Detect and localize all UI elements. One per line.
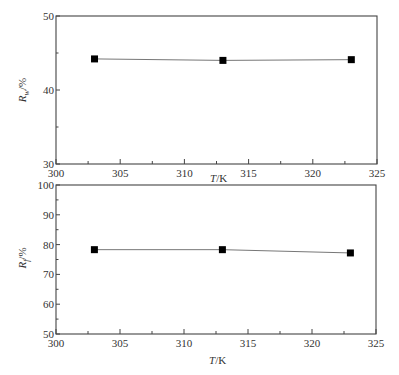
y-tick-label: 50	[43, 10, 55, 22]
data-point-marker	[91, 55, 98, 62]
plot-frame	[56, 185, 376, 334]
chart-canvas: 300305310315320325304050 300305310315320…	[0, 0, 399, 375]
x-tick-label: 325	[369, 167, 386, 179]
top-x-axis-title: T/K	[210, 172, 227, 184]
bottom-chart-rf: 3003053103153203255060708090100	[38, 179, 385, 349]
data-point-marker	[347, 249, 354, 256]
x-tick-label: 315	[240, 337, 257, 349]
y-tick-label: 50	[43, 328, 55, 340]
x-tick-label: 310	[176, 167, 193, 179]
x-tick-label: 320	[305, 167, 322, 179]
y-tick-label: 80	[43, 239, 55, 251]
y-tick-label: 100	[38, 179, 55, 191]
x-tick-label: 305	[112, 337, 129, 349]
data-point-marker	[348, 56, 355, 63]
data-point-marker	[91, 246, 98, 253]
data-point-marker	[219, 246, 226, 253]
y-tick-label: 60	[43, 298, 55, 310]
top-y-axis-title: Rw/%	[16, 78, 31, 103]
y-tick-label: 30	[43, 158, 55, 170]
x-tick-label: 315	[240, 167, 257, 179]
top-chart-rw: 300305310315320325304050	[43, 10, 386, 179]
y-tick-label: 90	[43, 209, 55, 221]
x-tick-label: 325	[368, 337, 385, 349]
y-tick-label: 70	[43, 268, 55, 280]
data-point-marker	[219, 57, 226, 64]
plot-frame	[56, 16, 377, 164]
x-tick-label: 310	[176, 337, 193, 349]
bottom-y-axis-title: Rf/%	[16, 247, 31, 269]
x-tick-label: 305	[112, 167, 129, 179]
y-tick-label: 40	[43, 84, 55, 96]
x-tick-label: 320	[304, 337, 321, 349]
bottom-x-axis-title: T/K	[209, 354, 226, 366]
